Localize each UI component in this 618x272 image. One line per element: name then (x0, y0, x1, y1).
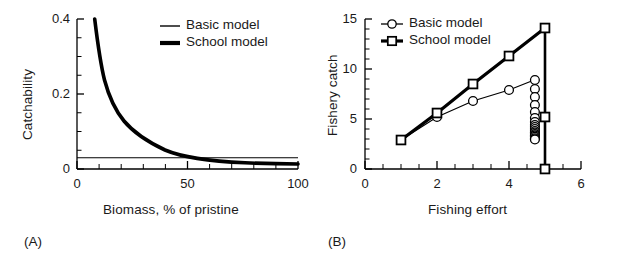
legend-school-mark (381, 37, 403, 45)
panel-a-xtick-0: 0 (57, 176, 97, 191)
panel-b-x-minor-ticks (383, 164, 563, 169)
series-basic-model-collapse-markers (531, 76, 540, 144)
panel-a-y-major-ticks (77, 19, 84, 169)
panel-b-legend-basic-label: Basic model (409, 15, 483, 30)
panel-b-ylabel: Fishery catch (325, 54, 340, 136)
panel-b-legend-marks (381, 20, 403, 45)
panel-a-legend-school-label: School model (186, 34, 268, 49)
panel-b-xtick-6: 6 (561, 176, 601, 191)
panel-b-y-major-ticks (365, 19, 372, 169)
panel-b-ytick-0: 0 (311, 161, 357, 176)
panel-b-xlabel: Fishing effort (428, 202, 507, 217)
panel-a-xtick-50: 50 (168, 176, 208, 191)
panel-a-tag: (A) (24, 234, 42, 249)
panel-b-xtick-4: 4 (489, 176, 529, 191)
panel-b-xtick-0: 0 (345, 176, 385, 191)
panel-a-ytick-0.4: 0.4 (22, 11, 70, 26)
panel-b-y-minor-ticks (365, 29, 370, 159)
panel-a-ylabel: Catchability (20, 69, 35, 140)
panel-a-legend-basic-label: Basic model (186, 17, 260, 32)
panel-a: 0 0.2 0.4 0 50 100 Catchability Biomass,… (0, 0, 309, 272)
panel-b-xtick-2: 2 (417, 176, 457, 191)
panel-b: 0 5 10 15 0 2 4 6 Fishery catch Fishing … (309, 0, 618, 272)
panel-a-legend-marks (160, 26, 180, 43)
panel-b-ytick-15: 15 (311, 11, 357, 26)
panel-a-xlabel: Biomass, % of pristine (103, 202, 239, 217)
panel-b-legend-school-label: School model (409, 32, 491, 47)
legend-basic-mark (381, 20, 403, 28)
panel-a-ytick-0: 0 (22, 161, 70, 176)
panel-b-tag: (B) (328, 234, 346, 249)
figure-container: 0 0.2 0.4 0 50 100 Catchability Biomass,… (0, 0, 618, 272)
